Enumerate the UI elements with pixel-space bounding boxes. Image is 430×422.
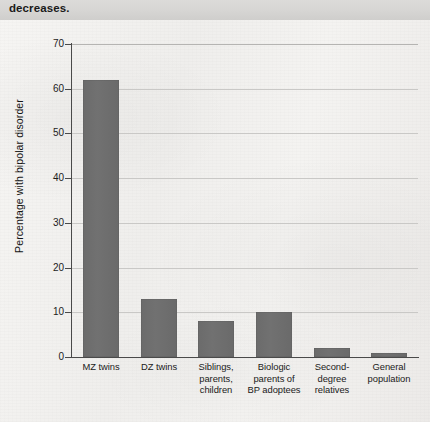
- bar-chart-figure: Percentage with bipolar disorder 0102030…: [0, 20, 430, 422]
- x-tick-label-line: population: [360, 373, 418, 385]
- x-tick-label-line: degree: [303, 373, 361, 385]
- x-tick-label-1: DZ twins: [130, 361, 188, 373]
- plot-area: [72, 44, 418, 357]
- y-tick-label-60: 60: [4, 83, 64, 94]
- x-tick-label-0: MZ twins: [72, 361, 130, 373]
- x-axis-line: [71, 357, 419, 358]
- gridline-50: [72, 133, 418, 134]
- x-tick-label-line: children: [187, 384, 245, 396]
- bar-3: [256, 312, 292, 357]
- y-axis-line: [71, 43, 72, 358]
- y-tick-30: [65, 223, 72, 224]
- gridline-60: [72, 89, 418, 90]
- gridline-40: [72, 178, 418, 179]
- x-tick-label-5: Generalpopulation: [360, 361, 418, 384]
- x-tick-label-line: DZ twins: [130, 361, 188, 373]
- x-tick-label-2: Siblings,parents,children: [187, 361, 245, 396]
- x-axis-tick-labels: MZ twinsDZ twinsSiblings,parents,childre…: [72, 361, 418, 419]
- gridline-30: [72, 223, 418, 224]
- bar-1: [141, 299, 177, 357]
- y-tick-10: [65, 312, 72, 313]
- y-tick-label-40: 40: [4, 172, 64, 183]
- x-tick-label-3: Biologicparents ofBP adoptees: [245, 361, 303, 396]
- y-tick-70: [65, 44, 72, 45]
- gridline-10: [72, 312, 418, 313]
- y-tick-label-0: 0: [4, 351, 64, 362]
- y-tick-60: [65, 89, 72, 90]
- y-tick-40: [65, 178, 72, 179]
- y-tick-label-20: 20: [4, 262, 64, 273]
- y-tick-20: [65, 268, 72, 269]
- y-tick-0: [65, 357, 72, 358]
- header-text: decreases.: [9, 2, 69, 14]
- x-tick-label-line: Second-: [303, 361, 361, 373]
- bar-0: [83, 80, 119, 357]
- gridline-70: [72, 44, 418, 45]
- x-tick-label-line: General: [360, 361, 418, 373]
- y-tick-label-10: 10: [4, 306, 64, 317]
- bar-2: [198, 321, 234, 357]
- x-tick-label-line: MZ twins: [72, 361, 130, 373]
- x-tick-label-line: Biologic: [245, 361, 303, 373]
- bar-4: [314, 348, 350, 357]
- x-tick-label-line: parents of: [245, 373, 303, 385]
- y-axis-tick-labels: 010203040506070: [0, 20, 64, 422]
- header-band: decreases.: [0, 0, 430, 20]
- y-tick-label-70: 70: [4, 38, 64, 49]
- x-tick-label-line: relatives: [303, 384, 361, 396]
- x-tick-label-line: BP adoptees: [245, 384, 303, 396]
- y-tick-label-30: 30: [4, 217, 64, 228]
- y-tick-50: [65, 133, 72, 134]
- x-tick-label-4: Second-degreerelatives: [303, 361, 361, 396]
- y-tick-label-50: 50: [4, 127, 64, 138]
- x-tick-label-line: parents,: [187, 373, 245, 385]
- gridline-20: [72, 268, 418, 269]
- x-tick-label-line: Siblings,: [187, 361, 245, 373]
